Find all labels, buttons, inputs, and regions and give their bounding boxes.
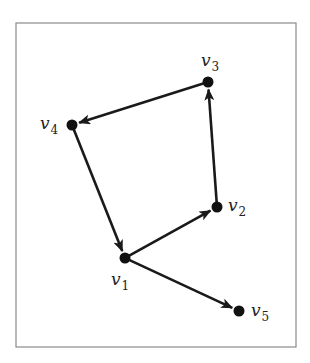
node-v5 [234,306,245,317]
edge-v4-to-v1 [73,128,122,251]
diagram-frame [16,23,296,347]
label-v2: v2 [228,195,246,219]
label-v4: v4 [40,113,59,137]
node-v1 [120,253,131,264]
edge-v1-to-v5 [128,259,232,307]
node-v4 [67,120,78,131]
edge-v1-to-v2 [128,211,211,257]
label-v5: v5 [251,300,269,324]
node-v3 [203,77,214,88]
node-v2 [212,202,223,213]
labels-group: v1v2v3v4v5 [40,50,269,324]
edges-group [73,83,232,308]
label-v1: v1 [111,269,129,293]
edge-v2-to-v3 [209,89,217,203]
label-v3: v3 [201,50,219,74]
edge-v3-to-v4 [79,83,205,123]
nodes-group [67,77,245,317]
directed-graph-diagram: v1v2v3v4v5 [0,0,310,363]
